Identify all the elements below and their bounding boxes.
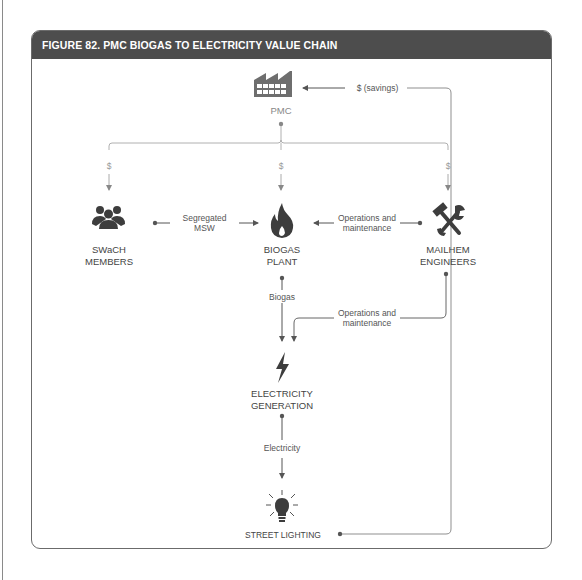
om-top-label: Operations and maintenance (334, 213, 400, 233)
money-branches (109, 122, 448, 190)
electricity-generation-label: ELECTRICITY GENERATION (240, 388, 324, 412)
lightbulb-icon (266, 490, 298, 522)
money-label-biogas: $ (275, 161, 287, 171)
biogas-flow-label: Biogas (262, 292, 302, 302)
savings-label: $ (savings) (350, 83, 405, 93)
street-lighting-label: STREET LIGHTING (240, 529, 326, 541)
mailhem-engineers-label: MAILHEM ENGINEERS (410, 244, 486, 268)
factory-icon (254, 71, 292, 97)
value-chain-diagram (0, 0, 582, 580)
tools-icon (432, 202, 465, 236)
biogas-flow (280, 276, 284, 341)
pmc-label: PMC (256, 105, 306, 117)
money-label-mailhem: $ (442, 161, 454, 171)
swach-members-label: SWaCH MEMBERS (73, 244, 145, 268)
om-bottom-label: Operations and maintenance (334, 308, 400, 328)
flame-icon (271, 203, 293, 238)
om-bottom-flow (294, 272, 448, 341)
msw-label: Segregated MSW (170, 213, 239, 233)
people-group-icon (92, 206, 125, 229)
money-label-swach: $ (103, 161, 115, 171)
electricity-flow-label: Electricity (256, 443, 308, 453)
biogas-plant-label: BIOGAS PLANT (246, 244, 318, 268)
lightning-bolt-icon (276, 352, 289, 383)
